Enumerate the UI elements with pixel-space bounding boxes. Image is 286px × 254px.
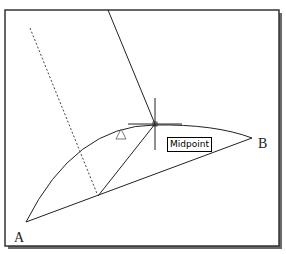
osnap-tooltip: Midpoint: [167, 137, 212, 152]
drawing-canvas[interactable]: [0, 0, 286, 254]
point-label-b: B: [258, 137, 267, 151]
viewport-frame: [5, 10, 279, 246]
point-label-a: A: [14, 231, 24, 245]
